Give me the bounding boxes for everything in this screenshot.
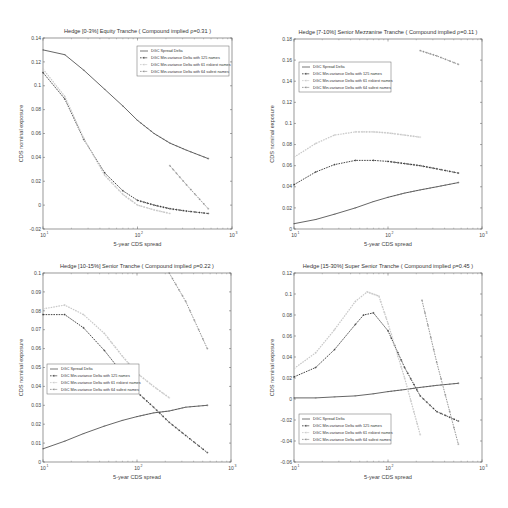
plus-marker-icon xyxy=(354,159,356,161)
chart-title: Hedge [7-10%] Senior Mezzanine Tranche (… xyxy=(299,29,478,35)
plus-marker-icon xyxy=(372,131,374,133)
plus-marker-icon xyxy=(387,132,389,134)
y-tick-label: 0.14 xyxy=(282,78,292,84)
plus-marker-icon xyxy=(419,50,421,52)
plus-marker-icon xyxy=(404,163,406,165)
series-4 xyxy=(421,299,459,445)
y-tick-label: 0.02 xyxy=(282,205,292,211)
x-tick-label: 10 xyxy=(40,465,46,471)
y-tick-label: 0.06 xyxy=(282,333,292,339)
plus-marker-icon xyxy=(407,163,409,165)
series-2 xyxy=(293,159,459,185)
y-tick-label: 0.09 xyxy=(31,289,41,295)
series-line xyxy=(422,300,458,444)
plus-marker-icon xyxy=(449,170,451,172)
plus-marker-icon xyxy=(199,212,201,214)
y-axis-label: CDS nominal exposure xyxy=(18,105,24,163)
y-tick-label: 0.1 xyxy=(285,120,292,126)
y-tick-label: -0.02 xyxy=(281,417,293,423)
plus-marker-icon xyxy=(430,336,432,338)
plus-marker-icon xyxy=(176,209,178,211)
y-tick-label: 0.04 xyxy=(31,154,41,160)
y-tick-label: 0.08 xyxy=(31,106,41,112)
plus-marker-icon xyxy=(354,300,356,302)
y-axis-label: CDS nominal exposure xyxy=(269,105,275,163)
x-tick-exponent: 2 xyxy=(141,231,143,235)
plus-marker-icon xyxy=(190,211,192,213)
y-tick-label: 0.03 xyxy=(31,402,41,408)
plus-marker-icon xyxy=(394,133,396,135)
plus-marker-icon xyxy=(444,170,446,172)
figure: Hedge [0-3%] Equity Tranche ( Compound i… xyxy=(0,0,508,508)
plus-marker-icon xyxy=(156,205,158,207)
y-tick-label: 0.02 xyxy=(31,178,41,184)
x-axis-label: 5-year CDS spread xyxy=(364,474,412,480)
series-line xyxy=(294,292,420,435)
x-tick-exponent: 3 xyxy=(486,464,488,468)
plus-marker-icon xyxy=(390,161,392,163)
legend-entry: DGC Min-variance Delta with 125 names xyxy=(313,72,382,76)
plus-marker-icon xyxy=(365,131,367,133)
series-line xyxy=(294,132,420,157)
series-3 xyxy=(42,68,171,214)
legend-entry: DGC Min-variance Delta with 125 names xyxy=(151,56,220,60)
plus-marker-icon xyxy=(426,166,428,168)
plus-marker-icon xyxy=(432,54,434,56)
series-4 xyxy=(168,272,208,350)
y-tick-label: 0.12 xyxy=(282,99,292,105)
plus-marker-icon xyxy=(410,163,412,165)
legend-entry: DGC Spread Delta xyxy=(313,65,346,69)
series-2 xyxy=(42,72,209,215)
chart-mezzanine: Hedge [7-10%] Senior Mezzanine Tranche (… xyxy=(269,29,488,247)
y-tick-label: 0.08 xyxy=(282,312,292,318)
plus-marker-icon xyxy=(179,209,181,211)
plus-marker-icon xyxy=(168,421,170,423)
x-tick-exponent: 3 xyxy=(235,464,237,468)
y-axis-label: CDS nominal exposure xyxy=(18,339,24,397)
plus-marker-icon xyxy=(413,135,415,137)
legend-entry: DGC Min-variance Delta with 64 safest na… xyxy=(313,438,391,442)
y-tick-label: 0.16 xyxy=(282,57,292,63)
y-tick-label: 0.1 xyxy=(34,82,41,88)
x-tick-label: 10 xyxy=(479,232,485,238)
y-tick-label: 0 xyxy=(38,459,41,465)
legend: DGC Spread DeltaDGC Min-variance Delta w… xyxy=(299,62,393,92)
series-1 xyxy=(42,404,208,449)
plus-marker-icon xyxy=(419,165,421,167)
legend-entry: DGC Min-variance Delta with 61 riskiest … xyxy=(313,431,393,435)
x-tick-exponent: 2 xyxy=(392,231,394,235)
legend-entry: DGC Spread Delta xyxy=(313,417,346,421)
legend-entry: DGC Min-variance Delta with 61 riskiest … xyxy=(61,381,141,385)
legend-entry: DGC Min-variance Delta with 125 names xyxy=(61,374,130,378)
x-tick-exponent: 3 xyxy=(486,231,488,235)
x-tick-label: 10 xyxy=(291,232,297,238)
chart-title: Hedge [10-15%] Senior Tranche ( Compound… xyxy=(60,263,214,269)
plus-marker-icon xyxy=(387,160,389,162)
legend: DGC Spread DeltaDGC Min-variance Delta w… xyxy=(299,414,393,444)
legend-entry: DGC Min-variance Delta with 64 safest na… xyxy=(151,70,229,74)
plus-marker-icon xyxy=(369,131,371,133)
plus-marker-icon xyxy=(426,52,428,54)
plus-marker-icon xyxy=(42,314,44,316)
plus-marker-icon xyxy=(169,208,171,210)
x-tick-exponent: 1 xyxy=(47,231,49,235)
legend: DGC Spread DeltaDGC Min-variance Delta w… xyxy=(47,364,141,394)
plus-marker-icon xyxy=(421,299,423,301)
y-tick-label: 0.06 xyxy=(31,130,41,136)
plus-marker-icon xyxy=(122,190,124,192)
y-tick-label: 0.18 xyxy=(282,36,292,42)
plus-marker-icon xyxy=(375,131,377,133)
y-tick-label: 0.12 xyxy=(282,270,292,276)
series-2 xyxy=(293,312,459,422)
plus-marker-icon xyxy=(397,133,399,135)
series-1 xyxy=(293,182,459,224)
plus-marker-icon xyxy=(440,169,442,171)
y-tick-label: -0.06 xyxy=(281,459,293,465)
plus-marker-icon xyxy=(427,324,429,326)
y-tick-label: 0.08 xyxy=(282,141,292,147)
y-tick-label: 0 xyxy=(289,396,292,402)
plus-marker-icon xyxy=(153,385,155,387)
series-line xyxy=(43,73,208,214)
plus-marker-icon xyxy=(436,168,438,170)
plus-marker-icon xyxy=(182,210,184,212)
